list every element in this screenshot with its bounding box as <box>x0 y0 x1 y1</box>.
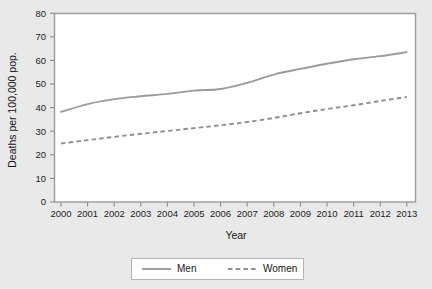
x-tick-label: 2010 <box>316 208 337 219</box>
x-tick-label: 2006 <box>210 208 231 219</box>
legend: Men Women <box>132 259 304 280</box>
x-tick-label: 2008 <box>263 208 284 219</box>
x-tick-label: 2005 <box>183 208 204 219</box>
y-tick-label: 70 <box>35 31 46 42</box>
legend-label-women: Women <box>263 263 297 274</box>
x-tick-label: 2001 <box>77 208 98 219</box>
x-tick-label: 2000 <box>50 208 71 219</box>
y-axis-title: Deaths per 100,000 pop. <box>6 52 18 168</box>
x-tick-label: 2009 <box>290 208 311 219</box>
x-tick-label: 2013 <box>396 208 417 219</box>
line-chart-svg: 0 10 20 30 40 50 <box>0 0 432 289</box>
x-tick-label: 2002 <box>104 208 125 219</box>
x-axis-title: Year <box>225 229 247 241</box>
y-tick-label: 10 <box>35 173 46 184</box>
y-tick-label: 80 <box>35 8 46 19</box>
x-tick-label: 2012 <box>370 208 391 219</box>
x-tick-label: 2007 <box>237 208 258 219</box>
chart-figure: 0 10 20 30 40 50 <box>0 0 432 289</box>
y-tick-label: 40 <box>35 102 46 113</box>
y-tick-label: 50 <box>35 78 46 89</box>
y-tick-label: 20 <box>35 149 46 160</box>
x-tick-label: 2004 <box>157 208 178 219</box>
plot-area <box>55 14 416 203</box>
legend-label-men: Men <box>177 263 196 274</box>
x-tick-label: 2003 <box>130 208 151 219</box>
x-tick-label: 2011 <box>343 208 363 219</box>
y-tick-label: 0 <box>41 196 46 207</box>
y-tick-label: 60 <box>35 55 46 66</box>
y-tick-label: 30 <box>35 126 46 137</box>
